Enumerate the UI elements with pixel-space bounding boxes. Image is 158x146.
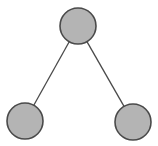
node-left-child (7, 103, 43, 139)
edge-root-to-right-child (87, 42, 124, 107)
edge-root-to-left-child (34, 42, 69, 106)
edge-layer (34, 42, 124, 107)
node-right-child (115, 104, 151, 140)
tree-diagram (0, 0, 158, 146)
node-root (60, 8, 96, 44)
node-layer (7, 8, 151, 140)
